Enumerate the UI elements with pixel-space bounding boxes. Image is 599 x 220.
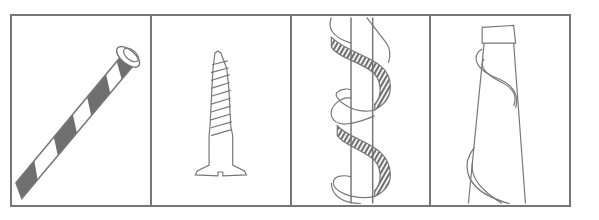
helix-ribbon-icon bbox=[292, 16, 430, 205]
figure-frame: Straight rod with spiral stripe and flar… bbox=[10, 14, 571, 207]
cone-spiral-icon bbox=[431, 16, 569, 205]
striped-rod-icon bbox=[12, 16, 150, 205]
panel-wood-screw: Wood screw with threaded shaft and slott… bbox=[152, 16, 292, 205]
panel-striped-rod: Straight rod with spiral stripe and flar… bbox=[12, 16, 152, 205]
panel-cone-spiral: Tapered cone with a band winding around … bbox=[431, 16, 569, 205]
panel-helix-ribbon: Ribbon spiraling around a straight colum… bbox=[292, 16, 432, 205]
wood-screw-icon bbox=[152, 16, 290, 205]
